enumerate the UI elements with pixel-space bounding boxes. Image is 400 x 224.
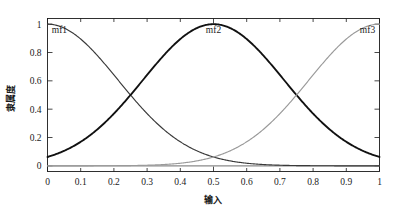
mf-label-mf1: mf1 <box>52 25 68 35</box>
x-tick-label: 0 <box>45 177 50 187</box>
x-axis-title: 输入 <box>204 194 222 205</box>
y-tick-label: 1 <box>37 20 42 30</box>
x-tick-label: 0.7 <box>274 177 286 187</box>
x-tick-label: 0.8 <box>307 177 319 187</box>
x-tick-label: 0.3 <box>141 177 153 187</box>
x-tick-label: 0.6 <box>241 177 253 187</box>
y-axis-title: 隶属度 <box>5 84 16 112</box>
membership-function-plot: 00.10.20.30.40.50.60.70.80.91 00.20.40.6… <box>0 0 400 224</box>
x-tick-label: 0.2 <box>108 177 120 187</box>
mf-label-mf3: mf3 <box>360 25 376 35</box>
y-tick-label: 0 <box>37 161 42 171</box>
x-tick-label: 1 <box>377 177 382 187</box>
y-tick-label: 0.6 <box>30 76 42 86</box>
x-tick-label: 0.4 <box>174 177 186 187</box>
y-tick-label: 0.8 <box>30 48 42 58</box>
mf-label-mf2: mf2 <box>206 25 222 35</box>
y-tick-label: 0.2 <box>30 133 42 143</box>
x-tick-label: 0.1 <box>75 177 87 187</box>
membership-function-figure: 00.10.20.30.40.50.60.70.80.91 00.20.40.6… <box>0 0 400 224</box>
x-tick-label: 0.9 <box>340 177 352 187</box>
x-tick-label: 0.5 <box>208 177 220 187</box>
y-tick-label: 0.4 <box>30 105 42 115</box>
